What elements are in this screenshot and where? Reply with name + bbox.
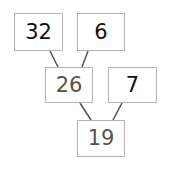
node-box-top-right: 6 bbox=[77, 13, 125, 51]
node-box-middle-left: 26 bbox=[45, 67, 93, 103]
connector-32-to-26 bbox=[50, 51, 58, 67]
node-value: 6 bbox=[94, 22, 107, 43]
connector-26-to-19 bbox=[80, 103, 91, 120]
number-tree-diagram: 32 6 26 7 19 bbox=[0, 0, 169, 175]
connector-7-to-19 bbox=[113, 103, 122, 120]
connector-6-to-26 bbox=[82, 51, 88, 67]
node-box-middle-right: 7 bbox=[108, 67, 157, 103]
node-value: 32 bbox=[25, 22, 52, 43]
node-box-top-left: 32 bbox=[14, 13, 63, 51]
node-value: 7 bbox=[126, 75, 139, 96]
node-box-bottom: 19 bbox=[77, 120, 125, 157]
node-value: 19 bbox=[88, 128, 115, 149]
node-value: 26 bbox=[56, 75, 83, 96]
